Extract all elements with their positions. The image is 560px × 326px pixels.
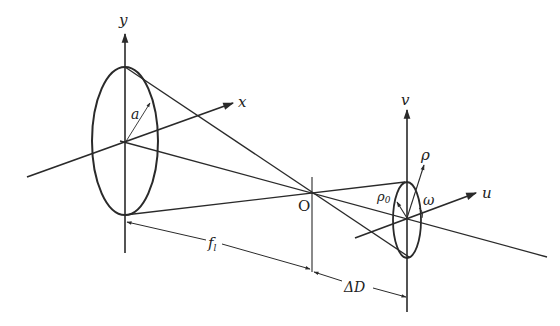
optics-diagram: O fl ΔD y x a v u ρ ρ0 ω <box>0 0 560 326</box>
f-dimension-left <box>127 222 206 240</box>
label-O: O <box>298 197 310 215</box>
ray-bottom <box>125 182 405 215</box>
x-axis <box>27 103 233 177</box>
label-rho: ρ <box>420 146 430 164</box>
label-f: fl <box>207 234 217 253</box>
label-rho0: ρ0 <box>376 189 391 205</box>
label-v: v <box>401 91 410 109</box>
label-a: a <box>131 106 139 122</box>
dimension-lines: fl ΔD <box>127 222 406 297</box>
observation-plane <box>355 110 476 312</box>
label-omega: ω <box>423 192 435 208</box>
label-deltaD: ΔD <box>343 279 365 295</box>
u-axis <box>355 193 476 238</box>
label-y: y <box>118 11 128 29</box>
rho0-arrow <box>397 202 407 218</box>
label-x: x <box>238 93 247 111</box>
deltaD-dimension-right <box>373 288 406 297</box>
rays <box>120 67 547 257</box>
f-dimension-right <box>222 244 310 269</box>
ray-top <box>125 67 409 257</box>
deltaD-dimension-left <box>314 272 342 281</box>
label-u: u <box>482 184 492 202</box>
